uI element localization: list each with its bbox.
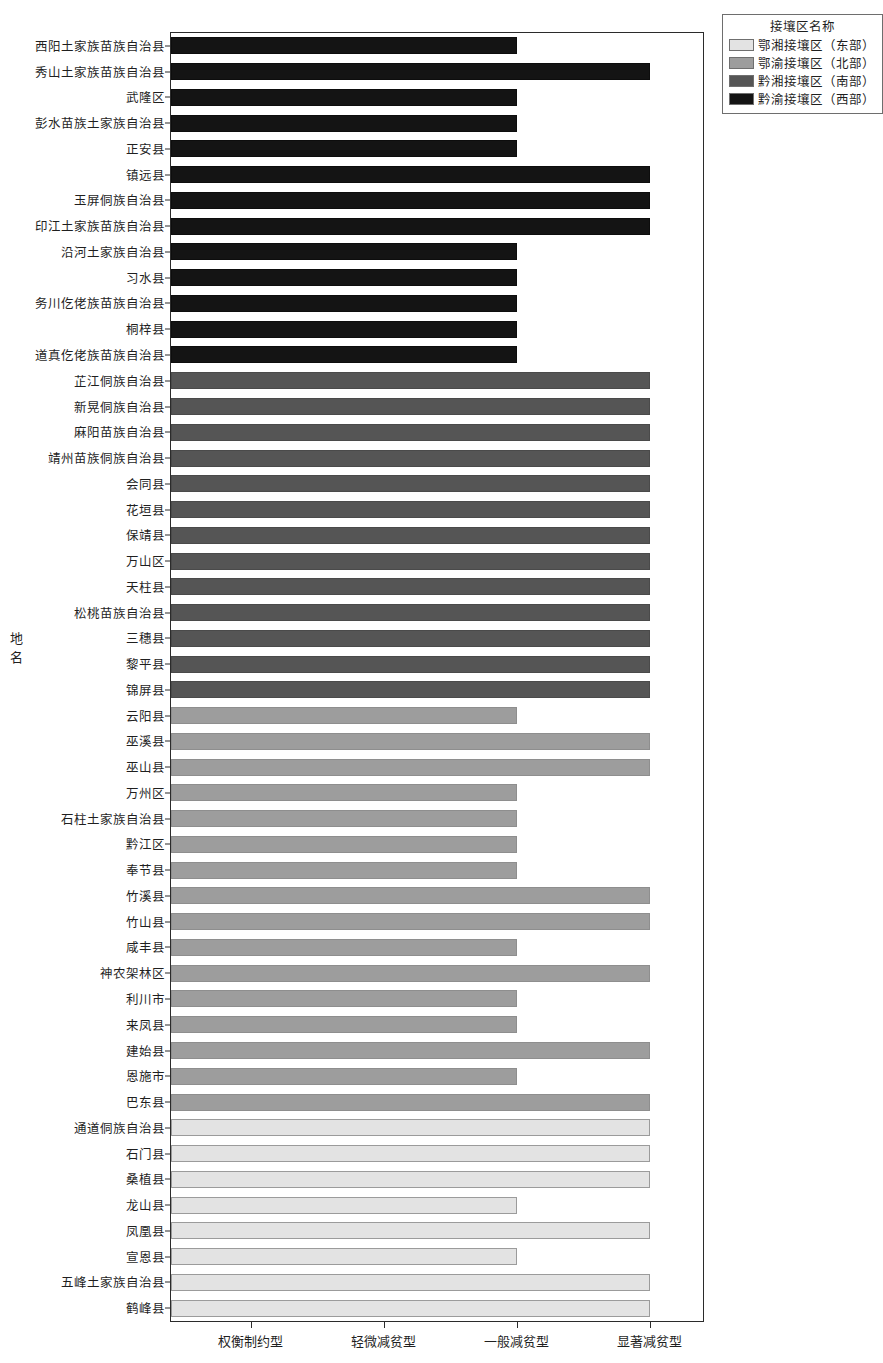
y-axis-tick-label: 咸丰县 (126, 941, 166, 954)
bar (171, 630, 650, 647)
x-axis-tick-label: 权衡制约型 (218, 1334, 283, 1350)
y-axis-tick-mark (165, 1179, 170, 1180)
y-axis-tick-mark (165, 999, 170, 1000)
y-axis-tick-mark (165, 277, 170, 278)
bar (171, 1145, 650, 1162)
bar (171, 887, 650, 904)
bar (171, 321, 517, 338)
y-axis-tick-mark (165, 1205, 170, 1206)
y-axis-tick-label: 宣恩县 (126, 1250, 166, 1263)
y-axis-tick-label: 桐梓县 (126, 323, 166, 336)
bar (171, 836, 517, 853)
y-axis-title-char: 地 (6, 629, 26, 648)
legend-item[interactable]: 黔渝接壤区（西部） (729, 90, 875, 108)
y-axis-tick-label: 黔江区 (126, 838, 166, 851)
bar (171, 604, 650, 621)
bar (171, 501, 650, 518)
y-axis-tick-label: 松桃苗族自治县 (74, 606, 166, 619)
x-axis-tick-mark (251, 1322, 252, 1328)
y-axis-tick-mark (165, 329, 170, 330)
y-axis-tick-mark (165, 792, 170, 793)
legend-swatch-icon (729, 57, 754, 69)
y-axis-tick-mark (165, 251, 170, 252)
bar (171, 424, 650, 441)
bar (171, 527, 650, 544)
legend-item[interactable]: 鄂渝接壤区（北部） (729, 54, 875, 72)
bar (171, 37, 517, 54)
x-axis-tick-label: 显著减贫型 (617, 1334, 682, 1350)
x-axis-tick-mark (384, 1322, 385, 1328)
bar (171, 578, 650, 595)
bar (171, 1016, 517, 1033)
y-axis-tick-label: 巫山县 (126, 761, 166, 774)
y-axis-tick-mark (165, 973, 170, 974)
bar (171, 1274, 650, 1291)
y-axis-tick-mark (165, 1050, 170, 1051)
bar (171, 450, 650, 467)
bars-layer (171, 33, 703, 1321)
y-axis-tick-label: 新晃侗族自治县 (74, 400, 166, 413)
bar (171, 295, 517, 312)
x-axis-tick-mark (517, 1322, 518, 1328)
y-axis-tick-label: 鹤峰县 (126, 1302, 166, 1315)
y-axis-tick-mark (165, 432, 170, 433)
y-axis-tick-mark (165, 1153, 170, 1154)
y-axis-tick-label: 建始县 (126, 1044, 166, 1057)
y-axis-tick-label: 靖州苗族侗族自治县 (48, 452, 166, 465)
y-axis-tick-label: 恩施市 (126, 1070, 166, 1083)
legend-item-label: 鄂湘接壤区（东部） (758, 38, 875, 53)
y-axis-tick-mark (165, 148, 170, 149)
legend-swatch-icon (729, 75, 754, 87)
y-axis-tick-label: 芷江侗族自治县 (74, 374, 166, 387)
y-axis-tick-label: 石柱土家族自治县 (61, 812, 166, 825)
legend-rows: 鄂湘接壤区（东部）鄂渝接壤区（北部）黔湘接壤区（南部）黔渝接壤区（西部） (729, 36, 875, 108)
bar (171, 1119, 650, 1136)
y-axis-tick-label: 会同县 (126, 477, 166, 490)
bar (171, 346, 517, 363)
bar (171, 553, 650, 570)
bar (171, 166, 650, 183)
y-axis-tick-mark (165, 1076, 170, 1077)
y-axis-tick-mark (165, 818, 170, 819)
y-axis-tick-label: 天柱县 (126, 580, 166, 593)
y-axis-tick-mark (165, 406, 170, 407)
x-axis-tick-labels: 权衡制约型轻微减贫型一般减贫型显著减贫型 (0, 1322, 867, 1363)
y-axis-title: 地名 (6, 629, 26, 667)
legend-item[interactable]: 鄂湘接壤区（东部） (729, 36, 875, 54)
y-axis-tick-mark (165, 1256, 170, 1257)
y-axis-tick-label: 玉屏侗族自治县 (74, 194, 166, 207)
y-axis-tick-label: 务川仡佬族苗族自治县 (35, 297, 166, 310)
y-axis-tick-mark (165, 355, 170, 356)
bar (171, 269, 517, 286)
y-axis-tick-mark (165, 767, 170, 768)
bar (171, 1068, 517, 1085)
y-axis-tick-mark (165, 612, 170, 613)
y-axis-tick-mark (165, 380, 170, 381)
y-axis-tick-mark (165, 1308, 170, 1309)
y-axis-tick-label: 镇远县 (126, 168, 166, 181)
legend-item-label: 鄂渝接壤区（北部） (758, 56, 875, 71)
y-axis-tick-mark (165, 200, 170, 201)
y-axis-tick-label: 秀山土家族苗族自治县 (35, 65, 166, 78)
bar (171, 939, 517, 956)
y-axis-tick-mark (165, 97, 170, 98)
y-axis-tick-mark (165, 664, 170, 665)
y-axis-tick-label: 奉节县 (126, 864, 166, 877)
bar (171, 707, 517, 724)
bar (171, 759, 650, 776)
bar (171, 243, 517, 260)
y-axis-tick-label: 麻阳苗族自治县 (74, 426, 166, 439)
bar (171, 965, 650, 982)
y-axis-tick-label: 云阳县 (126, 709, 166, 722)
bar (171, 1094, 650, 1111)
y-axis-tick-mark (165, 586, 170, 587)
bar (171, 63, 650, 80)
legend-item-label: 黔湘接壤区（南部） (758, 74, 875, 89)
bar (171, 1300, 650, 1317)
legend-item[interactable]: 黔湘接壤区（南部） (729, 72, 875, 90)
y-axis-tick-mark (165, 561, 170, 562)
y-axis-tick-mark (165, 689, 170, 690)
y-axis-tick-mark (165, 71, 170, 72)
y-axis-tick-label: 利川市 (126, 993, 166, 1006)
y-axis-tick-mark (165, 870, 170, 871)
